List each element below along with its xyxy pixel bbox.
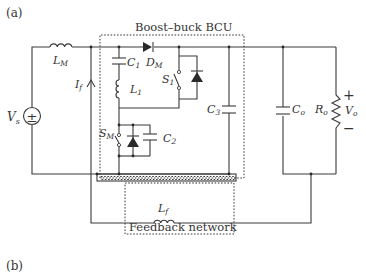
svg-text:Ro: Ro <box>314 103 328 117</box>
svg-text:If: If <box>74 78 83 92</box>
capacitor-c2: C2 <box>143 132 176 146</box>
inductor-lf: Lf <box>154 202 174 223</box>
vo-plus: + <box>343 87 355 103</box>
feedback-current-if: If <box>74 78 95 92</box>
vo-minus: − <box>343 120 355 136</box>
voltage-source-vs: ± Vs <box>7 108 41 127</box>
l1-label: L <box>129 83 137 96</box>
capacitor-co: Co <box>276 103 305 117</box>
source-plusminus-symbol: ± <box>27 110 38 125</box>
lf-label: L <box>157 202 165 215</box>
svg-text:C2: C2 <box>163 132 176 146</box>
svg-text:L1: L1 <box>129 83 142 97</box>
dm-label: D <box>145 56 155 69</box>
resistor-ro: Ro <box>314 95 340 128</box>
svg-text:Lf: Lf <box>157 202 169 216</box>
inductor-lm: LM <box>50 44 72 68</box>
output-voltage-vo: + − Vo <box>343 87 358 136</box>
feedback-network-box: Feedback network <box>125 183 238 234</box>
diode-sm-body <box>127 136 139 147</box>
svg-text:LM: LM <box>52 54 68 68</box>
ro-label: R <box>314 103 323 116</box>
svg-text:S1: S1 <box>162 73 174 87</box>
svg-text:Co: Co <box>292 103 305 117</box>
switch-s1: S1 <box>162 70 181 89</box>
boost-buck-bcu-circuit-diagram: (a) (b) <box>0 0 366 273</box>
svg-text:Vs: Vs <box>7 110 20 126</box>
switch-sm: SM <box>99 127 121 147</box>
panel-b-label: (b) <box>6 259 23 273</box>
capacitor-c3: C3 <box>207 103 236 117</box>
svg-text:C1: C1 <box>127 56 140 70</box>
wires <box>32 47 336 223</box>
lm-label: L <box>52 54 60 67</box>
diode-s1-body <box>191 71 203 82</box>
capacitor-c1: C1 <box>112 56 140 70</box>
inductor-l1: L1 <box>116 80 142 98</box>
svg-text:C3: C3 <box>207 103 220 117</box>
bcu-title: Boost–buck BCU <box>135 20 233 34</box>
panel-a-label: (a) <box>6 6 23 20</box>
svg-text:DM: DM <box>145 56 163 70</box>
diode-dm: DM <box>143 42 163 70</box>
svg-text:SM: SM <box>99 127 115 141</box>
feedback-title: Feedback network <box>129 220 238 234</box>
svg-text:Vo: Vo <box>345 104 358 118</box>
